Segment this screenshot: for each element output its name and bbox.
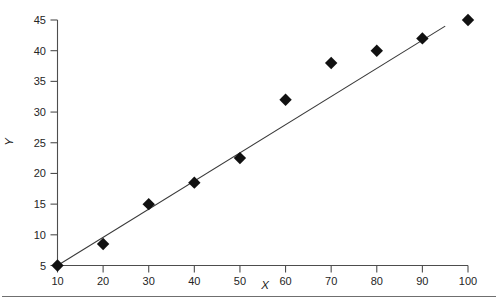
y-tick-label: 45: [34, 14, 46, 26]
x-tick-label: 30: [143, 275, 155, 287]
x-tick-label: 80: [371, 275, 383, 287]
x-tick-label: 50: [234, 275, 246, 287]
y-tick-label: 30: [34, 106, 46, 118]
x-tick-label: 40: [188, 275, 200, 287]
y-tick-label: 35: [34, 75, 46, 87]
y-tick-label: 15: [34, 198, 46, 210]
x-tick-label: 10: [51, 275, 63, 287]
y-tick-label: 25: [34, 137, 46, 149]
y-axis-title: Y: [3, 137, 15, 146]
x-tick-label: 100: [459, 275, 477, 287]
scatter-plot-figure: 51015202530354045 Y 10203040506070809010…: [0, 0, 498, 304]
x-axis-title: X: [260, 279, 270, 291]
y-tick-label: 40: [34, 45, 46, 57]
y-tick-label: 10: [34, 229, 46, 241]
x-tick-label: 60: [279, 275, 291, 287]
y-tick-label: 20: [34, 167, 46, 179]
x-tick-label: 70: [325, 275, 337, 287]
y-tick-label: 5: [40, 260, 46, 272]
y-tick-labels: 51015202530354045: [34, 14, 46, 272]
x-tick-label: 20: [97, 275, 109, 287]
plot-background: [0, 0, 498, 304]
x-tick-label: 90: [416, 275, 428, 287]
plot-canvas: 51015202530354045 Y 10203040506070809010…: [0, 0, 498, 304]
